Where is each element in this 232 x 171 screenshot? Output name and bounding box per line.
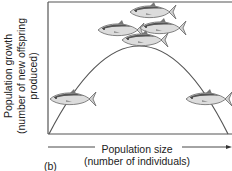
arrow-right-icon (226, 145, 232, 149)
fish-icon (50, 89, 96, 106)
axes-frame (48, 2, 232, 134)
x-axis-label: Population size (number of individuals) (62, 143, 212, 167)
x-axis-label-line2: (number of individuals) (62, 155, 212, 167)
fish-icon (186, 89, 232, 106)
growth-curve (49, 46, 228, 134)
fish-school-icon (98, 2, 186, 47)
x-axis-label-line1: Population size (62, 143, 212, 155)
panel-label: (b) (44, 160, 57, 171)
